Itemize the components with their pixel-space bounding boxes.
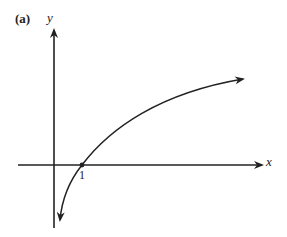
y-axis-label: y — [47, 11, 53, 24]
x-axis-label: x — [266, 155, 272, 168]
graph-canvas — [0, 0, 287, 237]
curve-upper-branch — [82, 79, 243, 165]
intercept-point — [80, 163, 85, 168]
panel-label: (a) — [15, 12, 30, 25]
tick-label-1: 1 — [79, 169, 85, 181]
